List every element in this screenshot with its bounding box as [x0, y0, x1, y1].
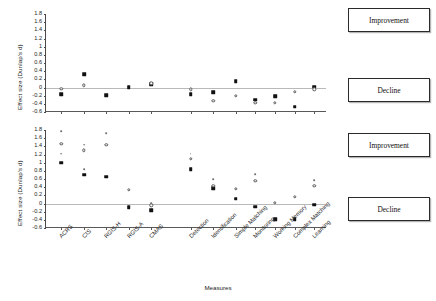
data-point-open-circle	[234, 94, 237, 97]
data-point-upper-dot	[190, 153, 192, 155]
annotation-decline-bottom: Decline	[348, 197, 430, 221]
x-tick-mark	[236, 111, 237, 114]
x-tick-mark	[295, 111, 296, 114]
data-point-open-circle	[293, 90, 296, 93]
y-tick-mark	[44, 112, 47, 113]
y-tick-mark	[44, 220, 47, 221]
data-point-open-circle	[60, 87, 63, 90]
y-tick-label: -0.6	[32, 109, 42, 115]
data-point-filled-square	[105, 93, 109, 97]
x-tick-mark	[106, 111, 107, 114]
x-tick-mark	[191, 111, 192, 114]
data-point-filled-square	[82, 73, 86, 77]
plot-area-top	[45, 14, 326, 112]
panel-bottom: Effect size (Dunlap's d) 1.81.61.41.210.…	[0, 125, 436, 235]
annotation-improvement-bottom: Improvement	[348, 133, 430, 157]
data-point-open-circle	[105, 143, 108, 146]
data-point-filled-square	[189, 167, 193, 171]
data-point-filled-square	[150, 208, 154, 212]
data-point-upper-dot	[106, 132, 108, 134]
panel-top: Effect size (Dunlap's d) 1.81.61.41.210.…	[0, 0, 436, 125]
y-tick-mark	[44, 39, 47, 40]
y-tick-mark	[44, 187, 47, 188]
y-tick-mark	[44, 155, 47, 156]
data-point-filled-square	[82, 173, 86, 177]
y-tick-label: 0	[39, 201, 42, 207]
data-point-filled-square	[313, 203, 317, 207]
data-point-open-circle	[313, 87, 316, 90]
data-point-lower-dot	[61, 153, 63, 155]
y-tick-mark	[44, 138, 47, 139]
y-tick-label: 1.6	[34, 135, 42, 141]
y-tick-mark	[44, 228, 47, 229]
data-point-open-circle	[313, 184, 316, 187]
y-tick-label: 0.8	[34, 52, 42, 58]
y-tick-mark	[44, 179, 47, 180]
y-tick-mark	[44, 96, 47, 97]
x-tick-mark	[151, 111, 152, 114]
x-tick-mark	[314, 111, 315, 114]
y-tick-mark	[44, 71, 47, 72]
y-tick-label: -0.2	[32, 209, 42, 215]
y-tick-label: 0.8	[34, 168, 42, 174]
data-point-open-circle	[189, 87, 192, 90]
data-point-upper-dot	[212, 178, 214, 180]
data-point-open-circle	[189, 157, 192, 160]
annotation-decline-top: Decline	[348, 78, 430, 102]
y-tick-mark	[44, 14, 47, 15]
y-tick-mark	[44, 163, 47, 164]
data-point-upper-dot	[83, 144, 85, 146]
y-tick-label: -0.4	[32, 101, 42, 107]
data-point-upper-dot	[61, 130, 63, 132]
data-point-filled-square	[127, 85, 131, 89]
x-tick-mark	[61, 111, 62, 114]
y-axis-tick-labels-bottom: 1.81.61.41.210.80.60.40.20-0.2-0.4-0.6	[22, 130, 42, 228]
x-axis-title: Measures	[0, 284, 436, 291]
data-point-filled-square	[234, 80, 238, 84]
y-tick-label: 0.4	[34, 68, 42, 74]
y-tick-label: 1.2	[34, 36, 42, 42]
x-tick-mark	[275, 111, 276, 114]
zero-reference-line-top	[46, 88, 326, 89]
y-tick-label: 0.2	[34, 77, 42, 83]
y-tick-mark	[44, 195, 47, 196]
data-point-open-circle	[127, 188, 130, 191]
y-tick-mark	[44, 63, 47, 64]
data-point-open-circle	[60, 142, 63, 145]
y-tick-mark	[44, 171, 47, 172]
data-point-open-circle	[234, 187, 237, 190]
y-tick-label: 1	[39, 160, 42, 166]
y-tick-label: 0.6	[34, 60, 42, 66]
y-tick-label: -0.2	[32, 93, 42, 99]
x-tick-mark	[84, 111, 85, 114]
data-point-upper-dot	[314, 179, 316, 181]
x-tick-mark	[129, 111, 130, 114]
y-tick-mark	[44, 22, 47, 23]
data-point-filled-square	[254, 205, 258, 209]
data-point-lower-dot	[83, 168, 85, 170]
y-tick-label: -0.6	[32, 225, 42, 231]
data-point-filled-square	[189, 92, 193, 96]
y-tick-mark	[44, 47, 47, 48]
y-tick-label: 0.2	[34, 193, 42, 199]
x-tick-mark	[213, 111, 214, 114]
y-tick-label: 1.8	[34, 11, 42, 17]
y-tick-mark	[44, 30, 47, 31]
data-point-filled-square	[211, 90, 215, 94]
data-point-filled-square	[60, 161, 64, 165]
y-axis-tick-labels-top: 1.81.61.41.210.80.60.40.20-0.2-0.4-0.6	[22, 14, 42, 112]
data-point-open-circle	[293, 195, 296, 198]
x-tick-mark	[255, 111, 256, 114]
y-tick-label: 1.2	[34, 152, 42, 158]
y-tick-mark	[44, 204, 47, 205]
y-tick-label: 1	[39, 44, 42, 50]
y-tick-mark	[44, 212, 47, 213]
y-tick-mark	[44, 146, 47, 147]
y-tick-label: 1.4	[34, 28, 42, 34]
zero-reference-line-bottom	[46, 204, 326, 205]
data-point-filled-square	[127, 205, 131, 209]
y-tick-label: 1.4	[34, 144, 42, 150]
y-tick-mark	[44, 104, 47, 105]
data-point-open-circle	[150, 203, 153, 206]
data-point-upper-dot	[151, 202, 153, 204]
